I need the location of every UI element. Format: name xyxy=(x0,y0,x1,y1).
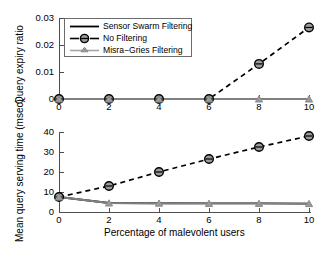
figure-canvas: Query expiry ratio 0.03 0.02 0.01 0 0 2 … xyxy=(0,0,327,253)
series-line-2 xyxy=(59,197,309,204)
legend-swatch-triangle-marker xyxy=(81,47,88,52)
legend-swatches xyxy=(65,19,193,58)
lower-panel: Mean query serving time (msec) 40 30 20 … xyxy=(0,118,327,253)
series-line-1 xyxy=(59,136,309,197)
legend: Sensor Swarm Filtering No Filtering Misr… xyxy=(64,18,192,57)
lower-panel-plot xyxy=(0,118,327,253)
upper-panel: Query expiry ratio 0.03 0.02 0.01 0 0 2 … xyxy=(0,0,327,118)
